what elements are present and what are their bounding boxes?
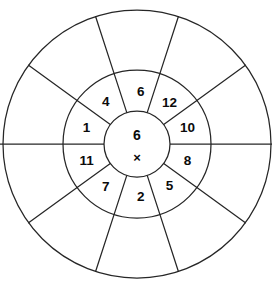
inner-ring-divider bbox=[114, 74, 127, 113]
outer-ring-divider bbox=[29, 65, 78, 100]
outer-ring-divider bbox=[96, 17, 115, 74]
outer-ring-divider bbox=[29, 187, 78, 222]
outer-ring-divider bbox=[160, 17, 179, 74]
inner-ring-number: 8 bbox=[184, 153, 192, 168]
inner-ring-divider bbox=[147, 74, 160, 113]
outer-ring-divider bbox=[197, 65, 246, 100]
outer-ring-divider bbox=[197, 187, 246, 222]
outer-ring-divider bbox=[160, 214, 179, 271]
center-operator-label: × bbox=[133, 150, 141, 165]
inner-ring-number: 2 bbox=[137, 189, 145, 204]
inner-ring-number: 1 bbox=[83, 120, 91, 135]
inner-ring-number: 10 bbox=[180, 120, 195, 135]
inner-ring-number: 5 bbox=[166, 178, 174, 193]
inner-ring-divider bbox=[147, 175, 160, 214]
inner-ring-number: 12 bbox=[162, 95, 177, 110]
center-factor-label: 6 bbox=[133, 127, 141, 143]
wheel-diagram: 6 × 6121085271114 bbox=[0, 0, 272, 285]
inner-ring-number: 6 bbox=[137, 84, 145, 99]
inner-ring-number: 4 bbox=[102, 94, 110, 109]
inner-ring-number: 11 bbox=[79, 153, 94, 168]
outer-ring-divider bbox=[96, 214, 115, 271]
inner-ring-number: 7 bbox=[102, 179, 110, 194]
multiplication-wheel-worksheet: 6 × 6121085271114 bbox=[0, 0, 272, 285]
inner-ring-divider bbox=[114, 175, 127, 214]
